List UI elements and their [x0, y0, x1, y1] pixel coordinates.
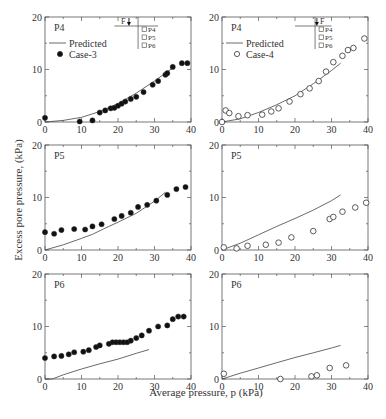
- y-tick-label: 20: [209, 269, 219, 280]
- data-point-filled: [77, 119, 82, 124]
- panel-label: P6: [231, 279, 242, 290]
- data-point-filled: [156, 324, 161, 329]
- data-point-filled: [99, 222, 104, 227]
- y-axis-label: Excess pore pressure, (kPa): [12, 139, 25, 261]
- y-tick-label: 10: [32, 192, 42, 203]
- data-point-filled: [86, 348, 91, 353]
- data-point-filled: [90, 224, 95, 229]
- x-tick-label: 20: [290, 381, 300, 392]
- sensor-marker-icon: [142, 27, 147, 32]
- data-point-open: [287, 99, 293, 105]
- data-point-open: [340, 53, 346, 59]
- y-tick-label: 20: [32, 140, 42, 151]
- y-tick-label: 0: [37, 374, 42, 385]
- predicted-line: [222, 63, 341, 122]
- legend-marker-sample: [57, 51, 62, 56]
- data-point-open: [345, 47, 351, 53]
- load-label: F: [121, 17, 126, 26]
- data-point-filled: [176, 314, 181, 319]
- x-tick-label: 40: [363, 252, 373, 263]
- y-tick-label: 20: [32, 12, 42, 23]
- x-tick-label: 20: [113, 124, 123, 135]
- sensor-marker-icon: [142, 35, 147, 40]
- x-tick-label: 0: [43, 252, 48, 263]
- x-tick-label: 10: [77, 124, 87, 135]
- plot-frame: [45, 145, 191, 250]
- data-point-filled: [145, 202, 150, 207]
- data-point-filled: [156, 78, 161, 83]
- data-point-filled: [97, 343, 102, 348]
- data-point-filled: [128, 338, 133, 343]
- legend: PredictedCase-3: [49, 38, 107, 60]
- data-point-open: [276, 106, 282, 112]
- data-point-open: [331, 59, 337, 65]
- data-point-filled: [154, 198, 159, 203]
- y-tick-label: 10: [209, 192, 219, 203]
- data-point-filled: [165, 192, 170, 197]
- x-tick-label: 0: [43, 124, 48, 135]
- data-point-filled: [52, 354, 57, 359]
- x-axis-label: Average pressure, p (kPa): [149, 386, 263, 399]
- data-point-filled: [185, 61, 190, 66]
- legend-marker-sample: [234, 51, 239, 56]
- x-tick-label: 20: [290, 124, 300, 135]
- y-tick-label: 0: [214, 117, 219, 128]
- x-tick-label: 40: [363, 124, 373, 135]
- x-tick-label: 30: [327, 124, 337, 135]
- data-point-open: [309, 374, 315, 380]
- panel-label: P6: [54, 279, 65, 290]
- data-point-open: [219, 119, 225, 125]
- panel-label: P5: [54, 150, 65, 161]
- data-point-filled: [42, 115, 47, 120]
- x-tick-label: 20: [113, 252, 123, 263]
- panel-bottom-right: 01020304001020P6: [209, 269, 373, 393]
- data-point-open: [362, 36, 368, 42]
- inset-schematic: FP4P5P6: [114, 17, 158, 50]
- data-point-open: [351, 45, 357, 51]
- data-point-open: [363, 200, 369, 206]
- panel-middle-left: 01020304001020P5: [32, 140, 196, 264]
- data-point-filled: [141, 89, 146, 94]
- data-point-filled: [150, 82, 155, 87]
- data-point-filled: [97, 110, 102, 115]
- data-point-open: [307, 86, 313, 92]
- data-point-filled: [165, 323, 170, 328]
- data-point-filled: [90, 118, 95, 123]
- legend-line-label: Predicted: [246, 38, 284, 49]
- x-tick-label: 30: [150, 252, 160, 263]
- data-point-open: [245, 112, 251, 118]
- data-point-filled: [72, 226, 77, 231]
- data-point-open: [245, 243, 251, 249]
- y-tick-label: 0: [214, 374, 219, 385]
- y-tick-label: 20: [209, 12, 219, 23]
- data-point-filled: [112, 216, 117, 221]
- legend-marker-label: Case-4: [246, 49, 274, 60]
- panel-top-right: 01020304001020P4PredictedCase-4FP4P5P6: [209, 12, 373, 136]
- load-arrowhead-icon: [127, 22, 131, 26]
- sensor-marker-icon: [319, 43, 324, 48]
- plot-frame: [222, 145, 368, 250]
- legend: PredictedCase-4: [226, 38, 284, 60]
- legend-marker-label: Case-3: [69, 49, 97, 60]
- x-tick-label: 0: [220, 252, 225, 263]
- data-point-filled: [135, 204, 140, 209]
- x-tick-label: 10: [77, 381, 87, 392]
- data-point-open: [314, 373, 320, 379]
- data-point-open: [276, 240, 282, 246]
- x-tick-label: 40: [186, 124, 196, 135]
- data-point-open: [263, 242, 269, 248]
- predicted-line: [45, 68, 173, 122]
- panels: 01020304001020P4PredictedCase-3FP4P5P601…: [32, 12, 373, 393]
- data-point-open: [221, 245, 227, 251]
- predicted-line: [222, 345, 341, 379]
- data-point-open: [298, 91, 304, 97]
- panel-top-left: 01020304001020P4PredictedCase-3FP4P5P6: [32, 12, 196, 136]
- data-point-open: [310, 228, 316, 234]
- data-point-filled: [123, 99, 128, 104]
- data-point-filled: [42, 355, 47, 360]
- data-point-open: [259, 112, 265, 118]
- x-tick-label: 0: [43, 381, 48, 392]
- x-tick-label: 40: [363, 381, 373, 392]
- y-tick-label: 10: [32, 64, 42, 75]
- sensor-marker-icon: [319, 35, 324, 40]
